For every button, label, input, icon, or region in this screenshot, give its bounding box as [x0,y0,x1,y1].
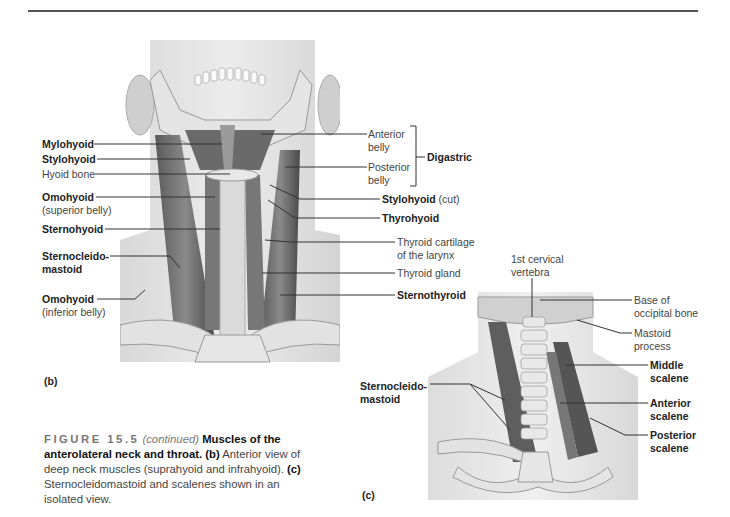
label-middle-scalene: Middle [650,359,683,371]
label-anterior-belly: Anterior [368,128,405,140]
panel-letter-b: (b) [44,375,57,387]
label-thyroid-gland: Thyroid gland [397,267,461,279]
label-thyroid-cartilage: Thyroid cartilage [397,236,475,248]
illustration-scalenes [428,292,638,500]
label-stylohyoid-cut: Stylohyoid (cut) [382,193,460,205]
label-omohyoid-inferior-sub: (inferior belly) [42,306,106,318]
top-rule [28,10,698,12]
label-digastric: Digastric [427,151,472,163]
figure-number: FIGURE 15.5 [44,433,139,445]
caption-continued: (continued) [142,433,199,445]
label-1st-cervical-vertebra-line2: vertebra [511,266,550,278]
label-omohyoid-superior-sub: (superior belly) [42,204,111,216]
label-sternohyoid: Sternohyoid [42,223,103,235]
label-thyrohyoid: Thyrohyoid [382,212,439,224]
label-omohyoid-inferior: Omohyoid [42,293,94,305]
label-base-occipital-bone: Base of [634,294,670,306]
label-posterior-belly: Posterior [368,161,410,173]
illustration-anterior-neck [120,40,340,365]
label-sternocleidomastoid-b-line2: mastoid [42,263,82,275]
label-sternothyroid: Sternothyroid [397,289,466,301]
panel-letter-c: (c) [362,489,375,501]
label-anterior-scalene-line2: scalene [650,410,689,422]
label-hyoid-bone: Hyoid bone [42,168,95,180]
label-sternocleidomastoid-c: Sternocleido- [360,380,427,392]
label-stylohyoid: Stylohyoid [42,153,96,165]
label-middle-scalene-line2: scalene [650,372,689,384]
caption-b-label: (b) [205,448,219,460]
label-posterior-scalene: Posterior [650,429,696,441]
label-mastoid-process: Mastoid [634,327,671,339]
label-stylohyoid-cut-suffix: (cut) [439,193,460,205]
label-1st-cervical-vertebra: 1st cervical [511,253,564,265]
label-mastoid-process-line2: process [634,340,671,352]
figure-caption: FIGURE 15.5 (continued) Muscles of the a… [44,432,316,507]
label-base-occipital-bone-line2: occipital bone [634,307,698,319]
label-posterior-scalene-line2: scalene [650,442,689,454]
label-sternocleidomastoid-c-line2: mastoid [360,393,400,405]
label-stylohyoid-cut-name: Stylohyoid [382,193,436,205]
label-thyroid-cartilage-line2: of the larynx [397,249,454,261]
label-sternocleidomastoid-b: Sternocleido- [42,250,109,262]
label-mylohyoid: Mylohyoid [42,138,94,150]
label-posterior-belly-line2: belly [368,174,390,186]
caption-c-text: Sternocleidomastoid and scalenes shown i… [44,478,280,505]
label-anterior-scalene: Anterior [650,397,691,409]
caption-c-label: (c) [287,463,301,475]
label-omohyoid-superior: Omohyoid [42,191,94,203]
label-anterior-belly-line2: belly [368,141,390,153]
